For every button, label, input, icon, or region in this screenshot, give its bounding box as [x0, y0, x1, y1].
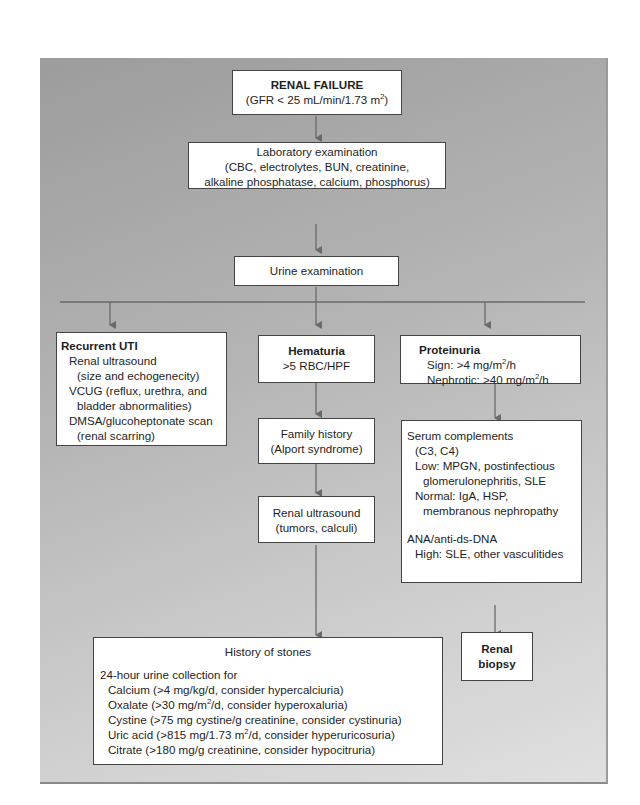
family-history-detail: (Alport syndrome)	[259, 441, 374, 456]
uti-item: bladder abnormalities)	[61, 398, 226, 413]
hematuria-title: Hematuria	[259, 343, 374, 358]
stone-test-item: Cystine (>75 mg cystine/g creatinine, co…	[100, 712, 442, 727]
serum-complements-box: Serum complements (C3, C4) Low: MPGN, po…	[401, 420, 582, 583]
family-history-box: Family history (Alport syndrome)	[258, 418, 375, 464]
lab-exam-tests-line2: alkaline phosphatase, calcium, phosphoru…	[189, 174, 445, 189]
ana-detail: High: SLE, other vasculitides	[407, 546, 581, 561]
serum-item: Normal: IgA, HSP,	[407, 488, 581, 503]
serum-item: Low: MPGN, postinfectious	[407, 458, 581, 473]
renal-failure-box: RENAL FAILURE (GFR < 25 mL/min/1.73 m2)	[232, 70, 402, 115]
serum-item: glomerulonephritis, SLE	[407, 473, 581, 488]
renal-biopsy-line1: Renal	[462, 641, 532, 656]
uti-item: DMSA/glucoheptonate scan	[61, 413, 226, 428]
lab-exam-title: Laboratory examination	[189, 144, 445, 159]
urine-examination-box: Urine examination	[234, 256, 399, 286]
stone-test-item: Uric acid (>815 mg/1.73 m2/d, consider h…	[100, 727, 442, 742]
proteinuria-nephrotic: Nephrotic: >40 mg/m2/h	[419, 372, 580, 387]
renal-biopsy-box: Renal biopsy	[461, 632, 533, 681]
hematuria-criteria: >5 RBC/HPF	[259, 358, 374, 373]
hematuria-box: Hematuria >5 RBC/HPF	[258, 335, 375, 383]
renal-failure-criteria: (GFR < 25 mL/min/1.73 m2)	[233, 92, 401, 107]
serum-item: (C3, C4)	[407, 443, 581, 458]
serum-item: membranous nephropathy	[407, 503, 581, 518]
urine-examination-label: Urine examination	[270, 264, 363, 277]
proteinuria-sign: Sign: >4 mg/m2/h	[419, 357, 580, 372]
uti-item: VCUG (reflux, urethra, and	[61, 383, 226, 398]
laboratory-examination-box: Laboratory examination (CBC, electrolyte…	[188, 142, 446, 189]
serum-item: Serum complements	[407, 428, 581, 443]
renal-ultrasound-detail: (tumors, calculi)	[259, 520, 374, 535]
renal-failure-title: RENAL FAILURE	[233, 77, 401, 92]
uti-item: (renal scarring)	[61, 428, 226, 443]
recurrent-uti-title: Recurrent UTI	[61, 338, 226, 353]
stone-test-item: Oxalate (>30 mg/m2/d, consider hyperoxal…	[100, 697, 442, 712]
urine-collection-intro: 24-hour urine collection for	[100, 667, 442, 682]
family-history-title: Family history	[259, 426, 374, 441]
stone-test-item: Calcium (>4 mg/kg/d, consider hypercalci…	[100, 682, 442, 697]
renal-biopsy-line2: biopsy	[462, 656, 532, 671]
lab-exam-tests-line1: (CBC, electrolytes, BUN, creatinine,	[189, 159, 445, 174]
history-of-stones-box: History of stones 24-hour urine collecti…	[93, 637, 443, 765]
proteinuria-title: Proteinuria	[419, 342, 580, 357]
renal-ultrasound-title: Renal ultrasound	[259, 505, 374, 520]
recurrent-uti-box: Recurrent UTI Renal ultrasound (size and…	[56, 332, 227, 446]
uti-item: Renal ultrasound	[61, 353, 226, 368]
ana-title: ANA/anti-ds-DNA	[407, 531, 581, 546]
stone-test-item: Citrate (>180 mg/g creatinine, consider …	[100, 742, 442, 757]
renal-ultrasound-box: Renal ultrasound (tumors, calculi)	[258, 496, 375, 543]
uti-item: (size and echogenecity)	[61, 368, 226, 383]
history-of-stones-title: History of stones	[100, 644, 442, 659]
proteinuria-box: Proteinuria Sign: >4 mg/m2/h Nephrotic: …	[400, 335, 581, 384]
